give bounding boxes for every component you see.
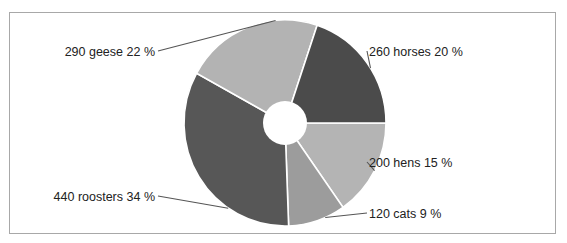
- donut-hole: [263, 101, 307, 145]
- slice-label-roosters: 440 roosters 34 %: [54, 190, 155, 204]
- slice-label-hens: 200 hens 15 %: [369, 156, 452, 170]
- donut-chart: 200 hens 15 % 120 cats 9 % 440 roosters …: [0, 0, 567, 243]
- slice-label-cats: 120 cats 9 %: [369, 207, 441, 221]
- slice-label-geese: 290 geese 22 %: [65, 45, 155, 59]
- slice-label-horses: 260 horses 20 %: [369, 45, 463, 59]
